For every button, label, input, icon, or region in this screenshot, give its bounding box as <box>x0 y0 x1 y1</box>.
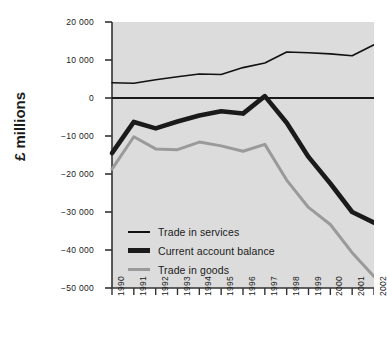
legend-item-trade-in-services: Trade in services <box>128 222 338 241</box>
x-axis-tick-label: 2002 <box>378 276 387 296</box>
legend-label-trade-in-services: Trade in services <box>158 226 239 238</box>
x-axis-tick-label: 2001 <box>356 276 366 296</box>
legend-swatch-trade-in-services <box>128 231 150 233</box>
legend-label-current-account-balance: Current account balance <box>158 245 275 257</box>
legend-swatch-current-account-balance <box>128 248 150 253</box>
legend-item-trade-in-goods: Trade in goods <box>128 260 338 279</box>
chart-legend: Trade in services Current account balanc… <box>128 222 338 279</box>
legend-swatch-trade-in-goods <box>128 268 150 271</box>
legend-item-current-account-balance: Current account balance <box>128 241 338 260</box>
x-axis-tick-label: 1990 <box>116 276 126 296</box>
legend-label-trade-in-goods: Trade in goods <box>158 264 229 276</box>
chart-container: £ millions 20 00010 0000−10 000−20 000−3… <box>0 0 387 350</box>
x-axis-tick-labels: 1990199119921993199419951996199719981999… <box>0 0 387 350</box>
